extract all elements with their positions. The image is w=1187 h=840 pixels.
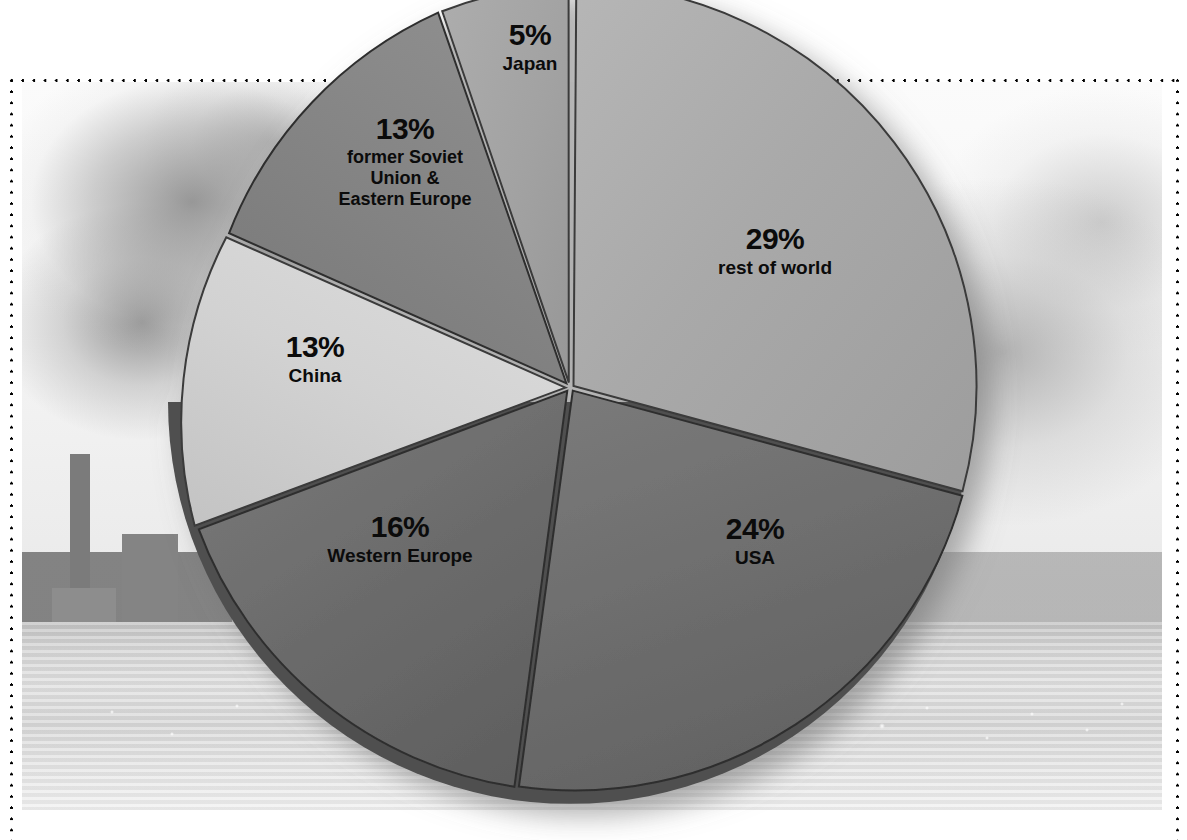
pie-label-name: Japan	[440, 53, 620, 75]
frame-dotted-left	[9, 78, 14, 840]
industrial-building-left	[52, 588, 116, 622]
frame-dotted-right	[1175, 78, 1180, 840]
pie-label-japan: 5% Japan	[440, 18, 620, 75]
pie-label-percent: 5%	[440, 18, 620, 53]
photo-skyline	[22, 552, 1162, 628]
background-photo	[22, 82, 1162, 810]
frame-dotted-top-right	[835, 78, 1180, 83]
frame-dotted-top-left	[9, 78, 334, 83]
photo-city-lights	[22, 694, 1162, 790]
pie-chart-poster: 29% rest of world 24% USA 16% Western Eu…	[0, 0, 1187, 840]
photo-sky	[22, 82, 1162, 622]
industrial-building-mid	[122, 534, 178, 622]
